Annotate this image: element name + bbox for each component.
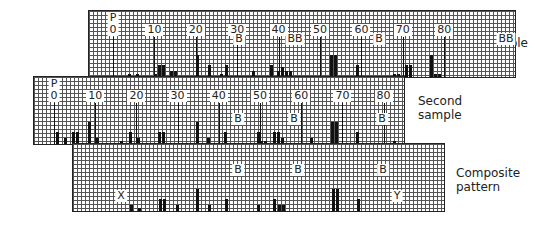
strip-composite: BBBXY <box>72 143 445 212</box>
tick-label: 0 <box>49 90 60 102</box>
label-second-line2: sample <box>418 108 462 122</box>
marker-b: B <box>373 33 385 45</box>
band <box>278 205 281 211</box>
band <box>225 199 228 211</box>
label-second-line1: Second <box>418 94 462 108</box>
tick-label: 0 <box>108 24 119 36</box>
band <box>434 74 437 77</box>
tick-line <box>361 37 362 77</box>
band <box>138 208 141 211</box>
tick-line <box>54 103 55 144</box>
band <box>208 205 211 211</box>
tick-label: 20 <box>127 90 145 102</box>
tick-prefix: P <box>108 12 119 24</box>
band <box>64 138 67 144</box>
tick-line <box>260 103 261 144</box>
band <box>335 122 338 144</box>
tick-label: 50 <box>251 90 269 102</box>
strip-second-sample: 01020304050607080PBBB <box>33 76 405 145</box>
marker-b: B <box>232 164 244 176</box>
tick-line <box>113 37 114 77</box>
tick-label: 50 <box>311 24 329 36</box>
band <box>273 199 276 211</box>
tick-line <box>178 103 179 144</box>
tick-line <box>320 37 321 77</box>
tick-label: 20 <box>187 24 205 36</box>
marker-x: X <box>115 190 127 202</box>
tick-line <box>342 103 343 144</box>
marker-y: Y <box>392 190 403 202</box>
band <box>176 205 179 211</box>
band <box>282 205 285 211</box>
band <box>130 205 133 211</box>
band <box>405 65 408 77</box>
band <box>159 199 162 211</box>
tick-label: 10 <box>86 90 104 102</box>
tick-prefix: P <box>49 78 60 90</box>
tick-label: 30 <box>169 90 187 102</box>
band <box>332 189 335 211</box>
band <box>257 205 260 211</box>
tick-line <box>403 37 404 77</box>
tick-label: 80 <box>435 24 453 36</box>
marker-bb: BB <box>496 33 515 45</box>
band <box>336 189 339 211</box>
label-composite: Composite pattern <box>456 166 520 194</box>
tick-label: 70 <box>394 24 412 36</box>
band <box>88 122 91 144</box>
tick-label: 60 <box>352 24 370 36</box>
tick-label: 10 <box>145 24 163 36</box>
marker-b: B <box>377 164 389 176</box>
band <box>409 65 412 77</box>
band <box>331 122 334 144</box>
strip-sample: 01020304050607080PBBBBBB <box>88 10 516 78</box>
band <box>56 132 59 144</box>
label-second-sample: Second sample <box>418 94 462 122</box>
band <box>430 55 433 77</box>
marker-b: B <box>232 113 244 125</box>
tick-line <box>301 103 302 144</box>
tick-label: 80 <box>375 90 393 102</box>
tick-label: 60 <box>292 90 310 102</box>
marker-bb: BB <box>285 33 304 45</box>
band <box>330 55 333 77</box>
band <box>196 122 199 144</box>
band <box>196 55 199 77</box>
tick-label: 70 <box>333 90 351 102</box>
tick-label: 40 <box>210 90 228 102</box>
label-composite-line2: pattern <box>456 180 520 194</box>
marker-b: B <box>288 113 300 125</box>
band <box>196 189 199 211</box>
band <box>438 74 441 77</box>
marker-b: B <box>233 33 245 45</box>
tick-line <box>444 37 445 77</box>
marker-b: B <box>292 164 304 176</box>
marker-b: B <box>376 113 388 125</box>
tick-line <box>219 103 220 144</box>
tick-line <box>154 37 155 77</box>
band <box>357 199 360 211</box>
band <box>334 55 337 77</box>
band <box>163 199 166 211</box>
label-composite-line1: Composite <box>456 166 520 180</box>
